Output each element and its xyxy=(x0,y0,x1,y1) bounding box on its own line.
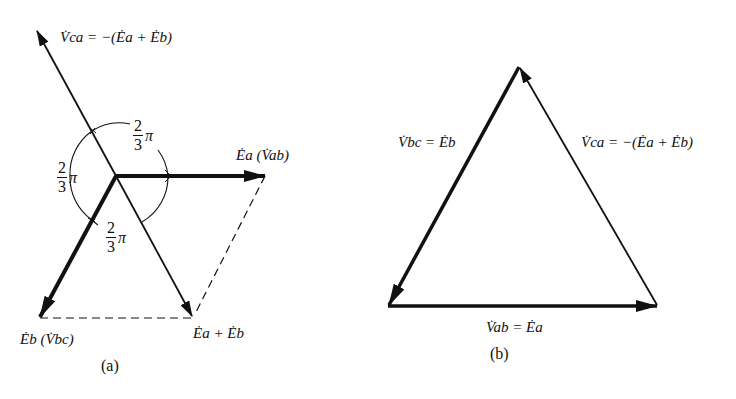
pi-symbol: π xyxy=(145,127,153,145)
label-esum-a: Ėa + Ėb xyxy=(193,326,244,341)
label-vca-b: V̇ca = −(Ėa + Ėb) xyxy=(581,135,693,150)
phasor-diagram-canvas xyxy=(0,0,736,399)
angle-label-top: 23 π xyxy=(133,118,153,153)
angle-num: 2 xyxy=(133,118,143,136)
pi-symbol: π xyxy=(69,169,77,187)
caption-panel-a: (a) xyxy=(101,357,119,375)
phasor-eb-arrow xyxy=(40,176,116,317)
label-vca-a: V̇ca = −(Ėa + Ėb) xyxy=(60,30,172,45)
triangle-vca-arrow xyxy=(520,68,657,305)
angle-num: 2 xyxy=(57,160,67,178)
angle-den: 3 xyxy=(107,238,115,255)
angle-label-left: 23 π xyxy=(57,160,77,195)
panel-b-diagram xyxy=(388,67,657,306)
angle-den: 3 xyxy=(134,136,142,153)
angle-label-bottom: 23 π xyxy=(106,220,126,255)
phasor-vca-arrow xyxy=(37,31,116,176)
phasor-sum-arrow xyxy=(116,176,192,316)
pi-symbol: π xyxy=(118,229,126,247)
label-ea-a: Ėa (V̇ab) xyxy=(236,148,289,163)
dashed-guide-right xyxy=(195,176,265,314)
angle-arc-right xyxy=(142,150,168,222)
caption-panel-b: (b) xyxy=(490,345,509,363)
label-vbc-b: V̇bc = Ėb xyxy=(398,135,456,150)
label-vab-b: V̇ab = Ėa xyxy=(486,320,543,335)
triangle-vbc-arrow xyxy=(389,67,519,305)
angle-den: 3 xyxy=(58,178,66,195)
angle-num: 2 xyxy=(106,220,116,238)
angle-arc-top xyxy=(92,123,130,131)
label-eb-a: Ėb (V̇bc) xyxy=(20,332,74,347)
